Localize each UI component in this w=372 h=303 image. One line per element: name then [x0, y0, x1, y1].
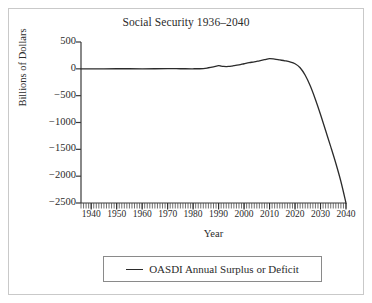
data-series-line — [81, 59, 346, 203]
x-tick-label: 2040 — [326, 209, 366, 219]
x-axis-minor-ticks — [81, 203, 346, 209]
legend-line-marker — [126, 269, 143, 270]
y-axis-tick-marks — [76, 42, 81, 203]
chart-figure: Social Security 1936–2040 Billions of Do… — [0, 0, 372, 303]
legend: OASDI Annual Surplus or Deficit — [103, 256, 322, 282]
legend-item-label: OASDI Annual Surplus or Deficit — [149, 263, 299, 275]
